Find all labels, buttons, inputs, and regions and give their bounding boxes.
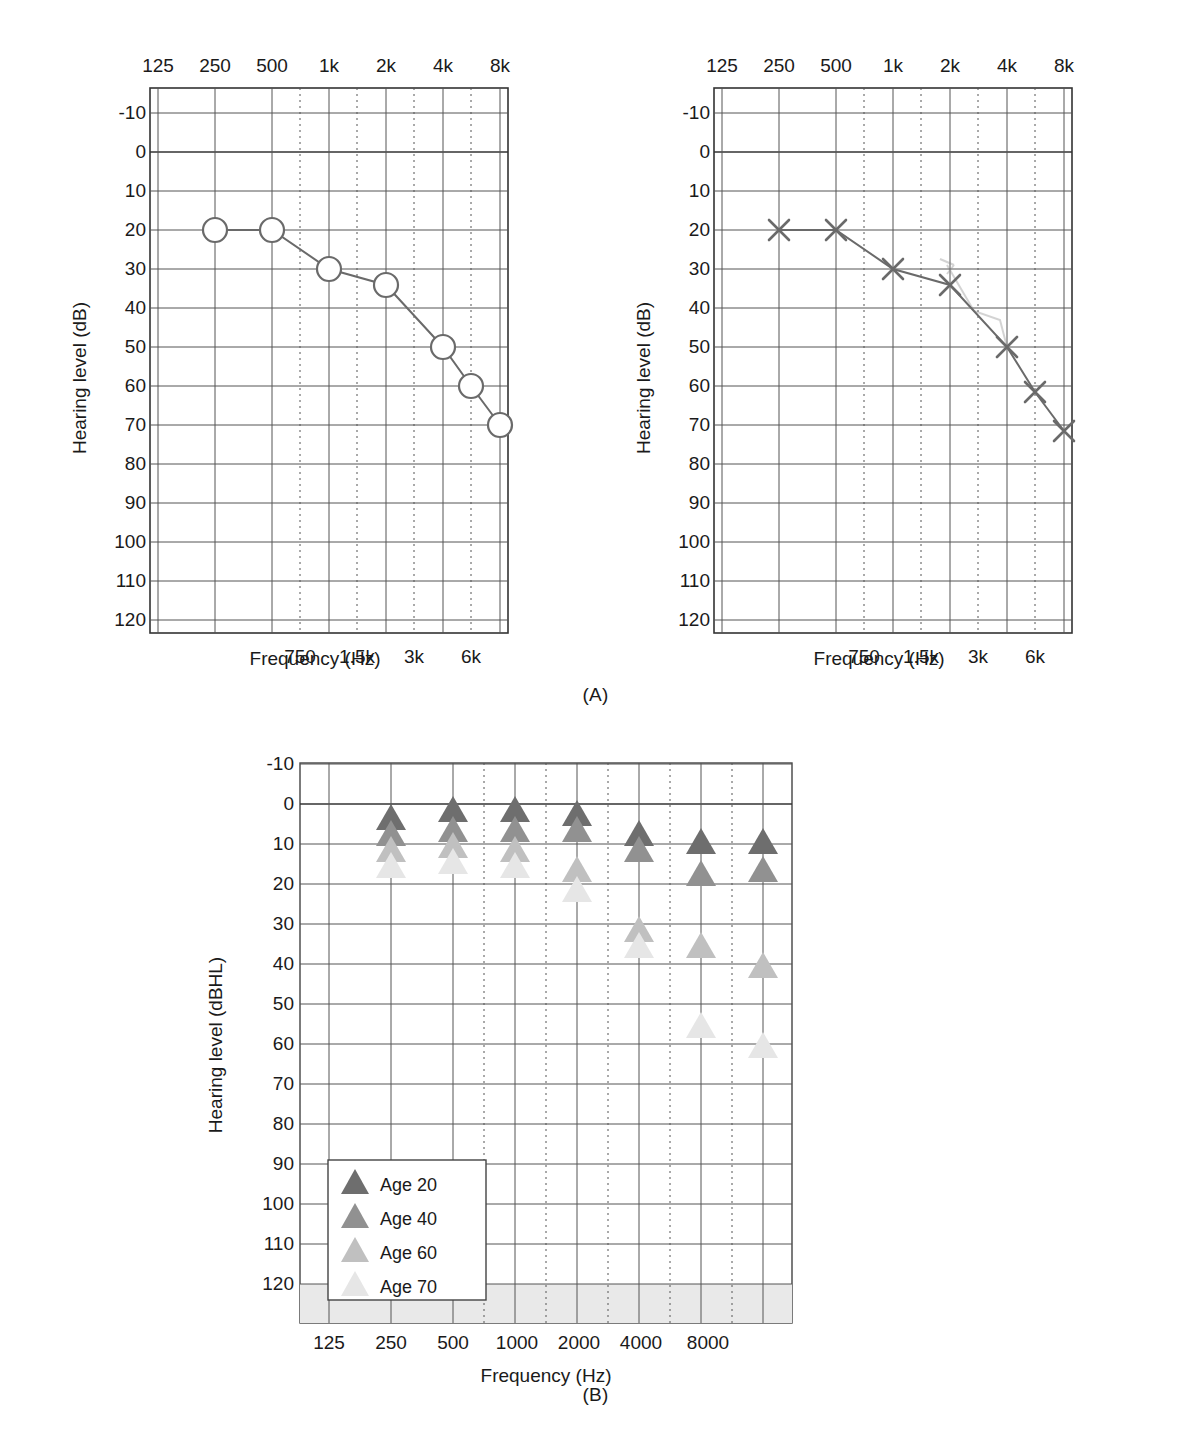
legend-label: Age 20 (380, 1175, 437, 1195)
y-tick: 20 (125, 219, 146, 240)
y-tick: 30 (273, 913, 294, 934)
y-tick: 90 (125, 492, 146, 513)
figure-root: Hearing level (dB) -10 0 10 20 30 40 50 … (0, 0, 1191, 1456)
x-tick-top: 125 (706, 55, 738, 76)
y-tick: 10 (125, 180, 146, 201)
y-tick: 10 (273, 833, 294, 854)
right-ear-audiogram-svg: Hearing level (dB) -10 0 10 20 30 40 50 … (70, 48, 560, 688)
x-tick: 250 (375, 1332, 407, 1353)
x-tick: 125 (313, 1332, 345, 1353)
y-tick: 110 (264, 1233, 294, 1254)
y-axis-title: Hearing level (dB) (634, 302, 654, 454)
x-tick: 4000 (620, 1332, 662, 1353)
top-tick-labels: 125 250 500 1k 2k 4k 8k (142, 55, 510, 76)
y-tick: 90 (273, 1153, 294, 1174)
panel-a-right-audiogram: Hearing level (dB) -10 0 10 20 30 40 50 … (634, 48, 1124, 688)
x-tick: 1000 (496, 1332, 538, 1353)
x-tick: 500 (437, 1332, 469, 1353)
y-tick: 80 (125, 453, 146, 474)
data-point (488, 413, 512, 437)
x-tick-top: 500 (256, 55, 288, 76)
y-tick: 0 (135, 141, 146, 162)
y-tick-labels: -10 0 10 20 30 40 50 60 70 80 90 100 110… (114, 102, 146, 630)
y-tick: 50 (273, 993, 294, 1014)
panel-a-tag: (A) (0, 684, 1191, 706)
y-tick: 110 (116, 570, 146, 591)
y-tick: 40 (273, 953, 294, 974)
y-tick: 60 (273, 1033, 294, 1054)
y-tick: 80 (689, 453, 710, 474)
y-tick: 70 (689, 414, 710, 435)
x-tick-top: 8k (490, 55, 511, 76)
x-tick-top: 4k (433, 55, 454, 76)
y-axis-title: Hearing level (dB) (70, 302, 90, 454)
y-tick: 30 (689, 258, 710, 279)
y-tick: 10 (689, 180, 710, 201)
y-tick: 60 (689, 375, 710, 396)
plot-grid (150, 88, 508, 633)
y-tick: -10 (267, 753, 294, 774)
x-tick-top: 1k (883, 55, 904, 76)
x-tick-top: 500 (820, 55, 852, 76)
data-point (260, 218, 284, 242)
data-point (431, 335, 455, 359)
y-tick: 30 (125, 258, 146, 279)
y-tick: 0 (283, 793, 294, 814)
y-tick: 70 (125, 414, 146, 435)
x-tick-top: 4k (997, 55, 1018, 76)
panel-b-age-scatter: Hearing level (dBHL) -10 0 10 20 30 40 5… (200, 745, 900, 1385)
legend-label: Age 60 (380, 1243, 437, 1263)
y-tick: 90 (689, 492, 710, 513)
y-tick: 70 (273, 1073, 294, 1094)
y-tick: 100 (262, 1193, 294, 1214)
data-point (203, 218, 227, 242)
panel-a-left-audiogram: Hearing level (dB) -10 0 10 20 30 40 50 … (70, 48, 560, 688)
y-tick: 100 (678, 531, 710, 552)
legend-label: Age 70 (380, 1277, 437, 1297)
y-tick: 120 (678, 609, 710, 630)
y-tick: 60 (125, 375, 146, 396)
x-tick: 2000 (558, 1332, 600, 1353)
x-axis-title: Frequency (Hz) (70, 648, 560, 670)
y-tick: -10 (683, 102, 710, 123)
top-tick-labels: 125 250 500 1k 2k 4k 8k (706, 55, 1074, 76)
age-legend[interactable]: Age 20 Age 40 Age 60 Age 70 (328, 1160, 486, 1300)
y-tick-labels: -10 0 10 20 30 40 50 60 70 80 90 100 110… (678, 102, 710, 630)
y-tick: 20 (689, 219, 710, 240)
y-tick: 0 (699, 141, 710, 162)
data-point (374, 273, 398, 297)
x-tick: 8000 (687, 1332, 729, 1353)
x-tick-top: 1k (319, 55, 340, 76)
y-tick: 40 (689, 297, 710, 318)
y-tick: 80 (273, 1113, 294, 1134)
x-tick-top: 8k (1054, 55, 1075, 76)
y-tick: -10 (119, 102, 146, 123)
y-tick: 40 (125, 297, 146, 318)
y-axis-title: Hearing level (dBHL) (205, 957, 226, 1133)
data-point (317, 257, 341, 281)
y-tick-labels: -10 0 10 20 30 40 50 60 70 80 90 100 110… (262, 753, 294, 1294)
x-tick-top: 2k (376, 55, 397, 76)
y-tick: 20 (273, 873, 294, 894)
x-tick-top: 250 (199, 55, 231, 76)
x-axis-title: Frequency (Hz) (634, 648, 1124, 670)
y-tick: 120 (114, 609, 146, 630)
y-tick: 110 (680, 570, 710, 591)
age-scatter-svg: Hearing level (dBHL) -10 0 10 20 30 40 5… (200, 745, 900, 1385)
y-tick: 50 (689, 336, 710, 357)
y-tick: 50 (125, 336, 146, 357)
x-tick-labels: 125 250 500 1000 2000 4000 8000 (313, 1332, 729, 1353)
legend-label: Age 40 (380, 1209, 437, 1229)
plot-grid (714, 88, 1072, 633)
y-tick: 100 (114, 531, 146, 552)
left-ear-audiogram-svg: Hearing level (dB) -10 0 10 20 30 40 50 … (634, 48, 1124, 688)
x-tick-top: 125 (142, 55, 174, 76)
x-tick-top: 2k (940, 55, 961, 76)
y-tick: 120 (262, 1273, 294, 1294)
data-point (459, 374, 483, 398)
panel-b-tag: (B) (0, 1384, 1191, 1406)
x-tick-top: 250 (763, 55, 795, 76)
